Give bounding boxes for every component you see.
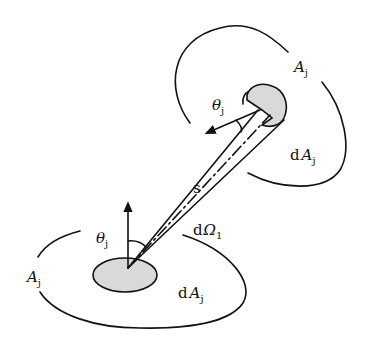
bottom-element-label: dAj: [178, 284, 204, 304]
top-angle-label: θj: [212, 96, 224, 116]
bottom-element-patch: [93, 258, 157, 292]
top-surface-label: Aj: [292, 58, 308, 78]
bottom-angle-label: θj: [96, 229, 108, 249]
bottom-surface-outline-left: [38, 231, 80, 257]
distance-label: s: [193, 179, 201, 197]
solid-angle-label: dΩ1: [193, 221, 222, 241]
top-element-label: dAj: [290, 146, 316, 166]
view-factor-diagram: Aj θj dAj s dΩ1 θj Aj dAj: [0, 0, 379, 362]
top-element-patch: [247, 84, 286, 126]
cone-line-right: [128, 120, 284, 268]
bottom-angle-arc: [128, 241, 146, 247]
bottom-surface-label: Aj: [25, 268, 41, 288]
